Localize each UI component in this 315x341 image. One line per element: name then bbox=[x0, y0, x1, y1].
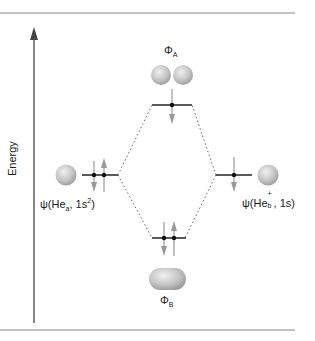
left-atomic-orbital bbox=[56, 158, 119, 192]
mo-diagram bbox=[0, 0, 315, 341]
right-atomic-label: ψ(He+b, 1s) bbox=[242, 197, 295, 209]
antibonding-orbital bbox=[151, 65, 193, 124]
left-atomic-label: ψ(Hea, 1s2) bbox=[40, 197, 95, 212]
correlation-lines bbox=[118, 105, 216, 238]
antibonding-label: ΦA bbox=[164, 45, 177, 58]
sphere-icon bbox=[173, 65, 193, 85]
sphere-icon bbox=[258, 165, 279, 186]
right-atomic-orbital bbox=[216, 157, 279, 192]
energy-axis-label: Energy bbox=[6, 141, 18, 176]
sphere-icon bbox=[151, 65, 171, 85]
bonding-label: ΦB bbox=[160, 295, 173, 308]
energy-axis bbox=[30, 27, 38, 323]
bonding-lobe-icon bbox=[149, 268, 186, 290]
bonding-orbital bbox=[149, 221, 186, 290]
axis-arrowhead-icon bbox=[30, 27, 38, 40]
sphere-icon bbox=[56, 165, 77, 186]
